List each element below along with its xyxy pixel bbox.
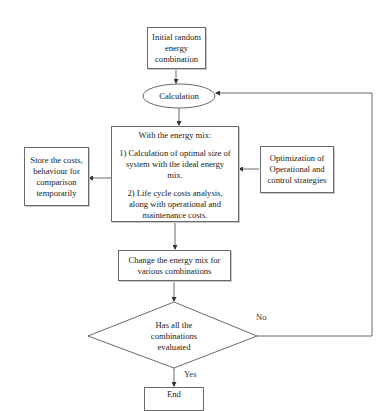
optimization-line-1: Optimization of bbox=[270, 153, 325, 164]
arrow-decision-loop-to-calculation bbox=[216, 93, 372, 336]
end-node: End bbox=[144, 387, 204, 411]
store-line-2: behaviour for bbox=[33, 166, 80, 177]
store-line-4: temporarily bbox=[36, 188, 76, 199]
edge-label-yes: Yes bbox=[184, 369, 197, 379]
optimization-node: Optimization of Operational and control … bbox=[260, 146, 334, 193]
start-line-1: Initial random bbox=[152, 32, 201, 43]
calculation-label: Calculation bbox=[159, 91, 199, 102]
process-heading: With the energy mix: bbox=[139, 130, 212, 141]
process-item1-line-3: mix. bbox=[167, 170, 183, 181]
process-item1-line-2: system with the ideal energy bbox=[126, 159, 224, 170]
store-line-3: comparison bbox=[36, 177, 76, 188]
process-item2-line-3: maintenance costs. bbox=[143, 210, 208, 221]
change-line-2: various combinations bbox=[138, 266, 212, 277]
decision-line-2: combinations bbox=[151, 331, 197, 342]
decision-line-3: evaluated bbox=[158, 342, 191, 353]
optimization-line-3: control strategies bbox=[268, 175, 327, 186]
end-label: End bbox=[167, 389, 181, 400]
start-node: Initial random energy combination bbox=[147, 27, 206, 69]
store-line-1: Store the costs, bbox=[30, 155, 82, 166]
edge-label-no: No bbox=[256, 312, 267, 322]
process-item1-line-1: 1) Calculation of optimal size of bbox=[119, 148, 230, 159]
change-line-1: Change the energy mix for bbox=[129, 255, 221, 266]
calculation-node: Calculation bbox=[143, 84, 215, 108]
optimization-line-2: Operational and bbox=[269, 164, 324, 175]
change-node: Change the energy mix for various combin… bbox=[118, 250, 231, 281]
start-line-2: energy bbox=[165, 43, 188, 54]
store-node: Store the costs, behaviour for compariso… bbox=[24, 147, 89, 206]
decision-line-1: Has all the bbox=[156, 320, 193, 331]
decision-node: Has all the combinations evaluated bbox=[128, 318, 220, 354]
process-item2-line-2: along with operational and bbox=[129, 199, 221, 210]
start-line-3: combination bbox=[155, 54, 198, 65]
process-item2-line-1: 2) Life cycle costs analysis, bbox=[127, 188, 222, 199]
process-node: With the energy mix: 1) Calculation of o… bbox=[111, 126, 239, 222]
